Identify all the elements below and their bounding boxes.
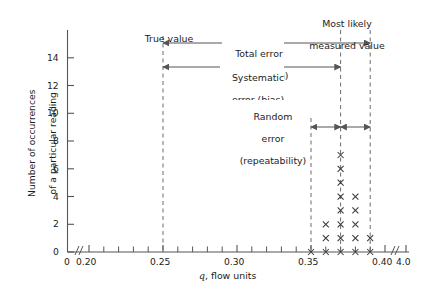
x-tick-label-40: 4.0	[396, 256, 411, 267]
y-tick-label-14: 14	[47, 52, 59, 63]
annotation-random-error-line2: error	[262, 133, 285, 144]
axis-break-right	[391, 246, 399, 255]
x-tick-label-030: 0.30	[224, 256, 244, 267]
annotation-systematic-error-line1: Systematic	[232, 72, 284, 83]
x-tick-label-035: 0.35	[298, 256, 318, 267]
y-axis-title: Number of occurrences of a particular re…	[16, 232, 176, 285]
x-tick-label-040: 0.40	[372, 256, 392, 267]
annotation-most-likely-line1: Most likely	[322, 18, 372, 29]
annotation-most-likely-line2: measured value	[309, 40, 384, 51]
annotation-true-value-text: True value	[145, 33, 194, 44]
annotation-random-error-line3: (repeatability)	[240, 155, 307, 166]
annotation-true-value: True value	[130, 22, 196, 55]
annotation-random-error: Random error (repeatability)	[226, 100, 308, 177]
annotation-total-error-line1: Total error	[235, 48, 283, 59]
x-axis-title-text: , flow units	[205, 270, 256, 281]
annotation-most-likely-measured-value: Most likely measured value	[297, 7, 385, 62]
chart-figure: 0 2 4 6 8 10 12 14 0 0.20 0.25 0.30 0.35…	[0, 0, 447, 293]
x-axis-title: q, flow units	[199, 270, 256, 281]
y-axis-title-line2: of a particular reading	[47, 92, 58, 194]
annotation-random-error-line1: Random	[254, 111, 293, 122]
y-axis-title-line1: Number of occurrences	[26, 90, 37, 197]
